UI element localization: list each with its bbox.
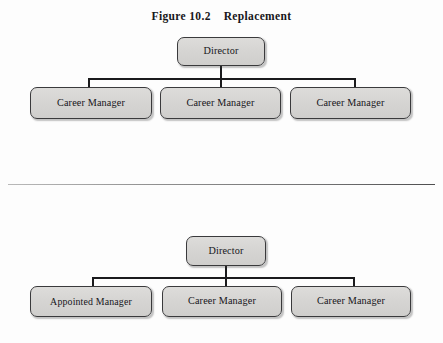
top-chart-child-node-2[interactable]: Career Manager [160,87,281,119]
top-chart-child-node-1[interactable]: Career Manager [30,87,152,119]
bottom-chart-child-node-2[interactable]: Career Manager [162,286,282,317]
node-label: Career Manager [57,98,125,108]
bottom-chart-child-node-3[interactable]: Career Manager [291,286,411,317]
top-chart-child-node-3[interactable]: Career Manager [290,87,411,119]
node-label: Director [208,246,243,256]
bottom-chart-root-node[interactable]: Director [186,236,266,266]
node-label: Director [203,46,238,56]
node-label: Career Manager [187,98,255,108]
figure-container: Figure 10.2 Replacement Director Career … [0,0,443,343]
bottom-chart-child-node-1[interactable]: Appointed Manager [30,286,152,317]
node-label: Career Manager [188,296,256,306]
node-label: Career Manager [317,98,385,108]
node-label: Appointed Manager [50,297,132,307]
section-divider [8,184,435,185]
top-chart-root-node[interactable]: Director [177,37,265,66]
node-label: Career Manager [317,296,385,306]
figure-title: Figure 10.2 Replacement [0,10,443,22]
bottom-chart-horizontal-bar [92,277,355,279]
